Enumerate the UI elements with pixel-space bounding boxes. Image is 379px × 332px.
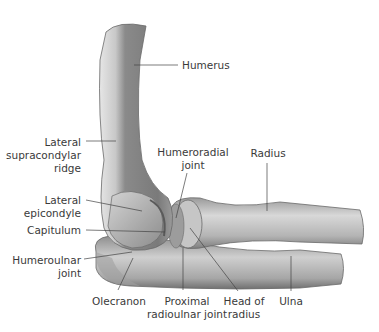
label-humeroradial-joint: Humeroradial joint xyxy=(153,146,233,172)
label-proximal-radioulnar-joint: Proximal radioulnar joint xyxy=(147,295,227,321)
label-olecranon: Olecranon xyxy=(85,295,153,308)
label-lateral-supracondylar-ridge: Lateral supracondylar ridge xyxy=(0,136,81,175)
label-lateral-epicondyle: Lateral epicondyle xyxy=(0,194,81,220)
label-head-of-radius: Head of radius xyxy=(222,295,266,321)
label-humerus: Humerus xyxy=(182,59,230,72)
label-humeroulnar-joint: Humeroulnar joint xyxy=(0,254,81,280)
label-ulna: Ulna xyxy=(276,295,306,308)
label-capitulum: Capitulum xyxy=(0,224,81,237)
label-radius: Radius xyxy=(248,147,288,160)
